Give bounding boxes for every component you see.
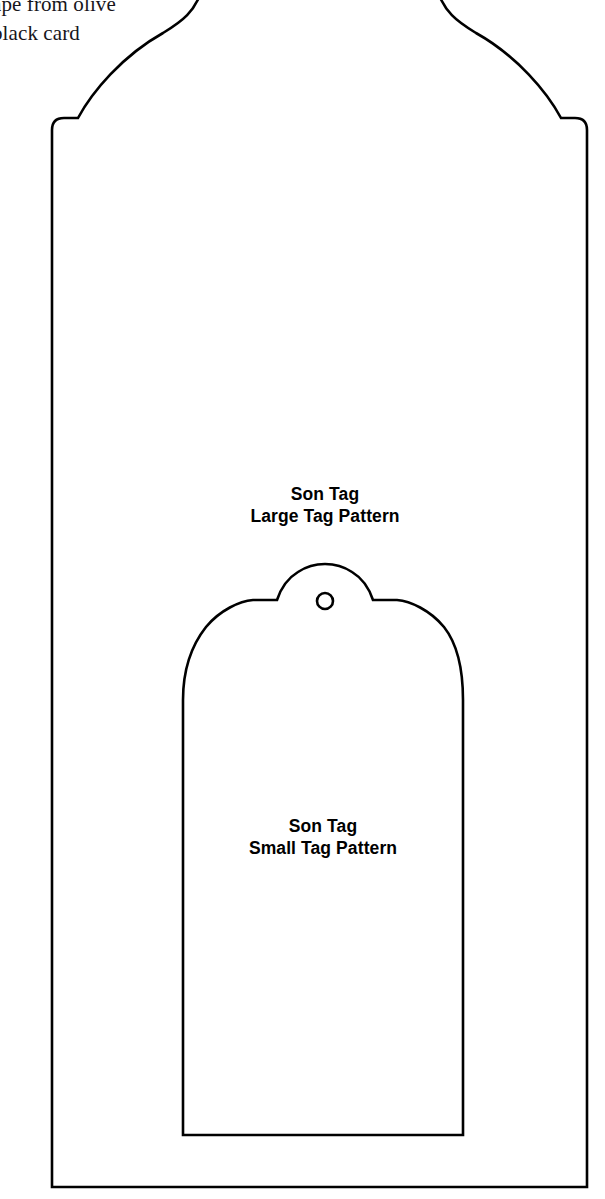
tag-hole-icon bbox=[317, 593, 333, 609]
small-tag-label-line-1: Son Tag bbox=[173, 816, 473, 838]
small-tag-label-line-2: Small Tag Pattern bbox=[173, 838, 473, 860]
large-tag-outline bbox=[52, 0, 587, 1187]
pattern-drawing bbox=[0, 0, 605, 1199]
large-tag-label: Son Tag Large Tag Pattern bbox=[175, 484, 475, 527]
large-tag-label-line-1: Son Tag bbox=[175, 484, 475, 506]
large-tag-label-line-2: Large Tag Pattern bbox=[175, 506, 475, 528]
pattern-sheet: ape from olive black card Son Tag Large … bbox=[0, 0, 605, 1199]
small-tag-label: Son Tag Small Tag Pattern bbox=[173, 816, 473, 859]
margin-note: ape from olive black card bbox=[0, 0, 212, 48]
